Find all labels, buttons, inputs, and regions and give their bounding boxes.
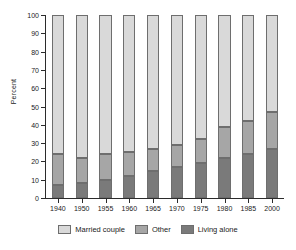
y-axis-tick-label: 20	[31, 158, 39, 165]
bar-stack[interactable]	[242, 15, 254, 198]
x-axis-tick	[248, 198, 249, 203]
bar-segment-married-couple[interactable]	[147, 15, 159, 149]
bar-segment-married-couple[interactable]	[195, 15, 207, 139]
y-axis-tick	[41, 107, 46, 108]
y-axis-tick	[41, 15, 46, 16]
x-axis-tick-label: 1940	[50, 205, 66, 212]
y-axis-tick-label: 10	[31, 176, 39, 183]
y-axis-tick	[41, 180, 46, 181]
bar-segment-married-couple[interactable]	[218, 15, 230, 127]
x-axis-tick-label: 1965	[145, 205, 161, 212]
bar-segment-other[interactable]	[99, 154, 111, 180]
bar-segment-married-couple[interactable]	[123, 15, 135, 152]
x-axis-tick-label: 1955	[98, 205, 114, 212]
y-axis-tick	[41, 33, 46, 34]
x-axis-tick	[153, 198, 154, 203]
bar-segment-other[interactable]	[266, 112, 278, 149]
x-axis-tick	[58, 198, 59, 203]
legend-swatch-icon	[58, 225, 71, 234]
bar-stack[interactable]	[99, 15, 111, 198]
y-axis-tick	[41, 52, 46, 53]
x-axis-tick	[82, 198, 83, 203]
bar-stack[interactable]	[266, 15, 278, 198]
y-axis-tick-label: 40	[31, 121, 39, 128]
x-axis-tick-label: 1980	[217, 205, 233, 212]
bar-stack[interactable]	[123, 15, 135, 198]
bar-segment-other[interactable]	[218, 127, 230, 158]
bar-segment-living-alone[interactable]	[218, 158, 230, 198]
x-axis-tick-label: 1950	[74, 205, 90, 212]
bar-segment-living-alone[interactable]	[52, 185, 64, 198]
bar-stack[interactable]	[218, 15, 230, 198]
y-axis-title: Percent	[10, 57, 17, 127]
bar-segment-other[interactable]	[195, 139, 207, 163]
y-axis-tick-label: 0	[35, 195, 39, 202]
legend-item-label: Married couple	[75, 225, 125, 234]
legend-item-label: Other	[152, 225, 171, 234]
x-axis-tick-label: 2000	[264, 205, 280, 212]
x-axis-tick	[225, 198, 226, 203]
bar-segment-other[interactable]	[171, 145, 183, 167]
legend-item[interactable]: Married couple	[58, 225, 125, 234]
y-axis-tick-label: 90	[31, 30, 39, 37]
bar-segment-other[interactable]	[147, 149, 159, 171]
y-axis-tick-label: 30	[31, 140, 39, 147]
bar-segment-married-couple[interactable]	[52, 15, 64, 154]
chart-legend: Married coupleOtherLiving alone	[0, 225, 296, 234]
y-axis-tick	[41, 70, 46, 71]
x-axis-tick-label: 1970	[169, 205, 185, 212]
bar-stack[interactable]	[76, 15, 88, 198]
y-axis-tick-label: 100	[27, 12, 39, 19]
bar-segment-married-couple[interactable]	[99, 15, 111, 154]
x-axis-tick-label: 1960	[122, 205, 138, 212]
y-axis-tick	[41, 143, 46, 144]
bar-segment-living-alone[interactable]	[195, 163, 207, 198]
y-axis-tick-label: 50	[31, 103, 39, 110]
x-axis-tick	[201, 198, 202, 203]
bar-stack[interactable]	[171, 15, 183, 198]
y-axis-tick	[41, 125, 46, 126]
bar-segment-other[interactable]	[76, 158, 88, 184]
bar-segment-other[interactable]	[242, 121, 254, 154]
bar-segment-married-couple[interactable]	[242, 15, 254, 121]
bar-stack[interactable]	[52, 15, 64, 198]
x-axis-tick-label: 1975	[193, 205, 209, 212]
x-axis-tick-label: 1985	[241, 205, 257, 212]
legend-item[interactable]: Living alone	[181, 225, 238, 234]
x-axis-tick	[106, 198, 107, 203]
bar-stack[interactable]	[147, 15, 159, 198]
y-axis-tick	[41, 88, 46, 89]
x-axis-tick	[129, 198, 130, 203]
plot-area: 0102030405060708090100194019501955196019…	[45, 15, 284, 199]
bar-segment-other[interactable]	[52, 154, 64, 185]
x-axis-tick	[272, 198, 273, 203]
legend-swatch-icon	[135, 225, 148, 234]
y-axis-tick-label: 70	[31, 66, 39, 73]
bar-segment-living-alone[interactable]	[171, 167, 183, 198]
bar-segment-living-alone[interactable]	[76, 183, 88, 198]
legend-item-label: Living alone	[198, 225, 238, 234]
y-axis-tick-label: 80	[31, 48, 39, 55]
x-axis-tick	[177, 198, 178, 203]
bar-stack[interactable]	[195, 15, 207, 198]
bar-segment-living-alone[interactable]	[266, 149, 278, 198]
y-axis-tick	[41, 161, 46, 162]
bar-segment-living-alone[interactable]	[242, 154, 254, 198]
bar-segment-married-couple[interactable]	[171, 15, 183, 145]
bar-segment-living-alone[interactable]	[147, 171, 159, 198]
bar-segment-other[interactable]	[123, 152, 135, 176]
legend-item[interactable]: Other	[135, 225, 171, 234]
stacked-bar-chart: Percent 01020304050607080901001940195019…	[0, 0, 296, 250]
bar-segment-married-couple[interactable]	[266, 15, 278, 112]
bar-segment-married-couple[interactable]	[76, 15, 88, 158]
y-axis-tick-label: 60	[31, 85, 39, 92]
y-axis-tick	[41, 198, 46, 199]
bar-segment-living-alone[interactable]	[99, 180, 111, 198]
bar-segment-living-alone[interactable]	[123, 176, 135, 198]
legend-swatch-icon	[181, 225, 194, 234]
